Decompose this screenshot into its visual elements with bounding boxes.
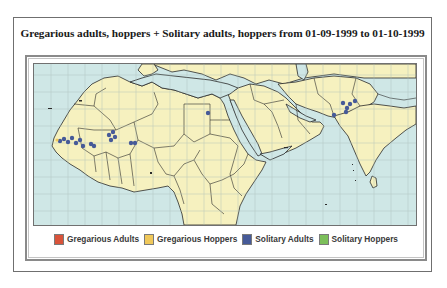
legend-label: Gregarious Adults	[67, 234, 139, 244]
observation-marker-solitary-adults[interactable]	[129, 141, 133, 145]
observation-marker-solitary-adults[interactable]	[66, 140, 70, 144]
observation-marker-solitary-adults[interactable]	[345, 106, 349, 110]
legend-swatch-gregarious-adults	[54, 234, 64, 245]
legend-swatch-solitary-hoppers	[319, 234, 329, 245]
observation-marker-solitary-adults[interactable]	[74, 141, 78, 145]
map-title: Gregarious adults, hoppers + Solitary ad…	[14, 27, 431, 39]
legend-label: Gregarious Hoppers	[157, 234, 237, 244]
locust-distribution-map[interactable]	[33, 63, 417, 226]
observation-marker-solitary-adults[interactable]	[332, 113, 336, 117]
observation-marker-solitary-adults[interactable]	[348, 102, 352, 106]
map-frame: Gregarious Adults Gregarious Hoppers Sol…	[25, 55, 427, 261]
observation-marker-solitary-adults[interactable]	[111, 130, 115, 134]
observation-marker-solitary-adults[interactable]	[62, 137, 66, 141]
observation-marker-solitary-adults[interactable]	[78, 138, 82, 142]
legend-label: Solitary Adults	[255, 234, 313, 244]
observation-marker-gregarious-hoppers[interactable]	[55, 138, 58, 141]
legend-item-solitary-adults[interactable]: Solitary Adults	[242, 234, 313, 245]
observation-marker-solitary-adults[interactable]	[341, 101, 345, 105]
observation-marker-solitary-adults[interactable]	[92, 144, 96, 148]
legend-swatch-gregarious-hoppers	[144, 234, 154, 245]
legend-swatch-solitary-adults	[242, 234, 252, 245]
observation-marker-solitary-adults[interactable]	[113, 135, 117, 139]
legend-label: Solitary Hoppers	[332, 234, 398, 244]
map-panel: Gregarious adults, hoppers + Solitary ad…	[13, 17, 432, 272]
observation-marker-solitary-adults[interactable]	[344, 110, 348, 114]
observation-marker-solitary-adults[interactable]	[133, 141, 137, 145]
legend-item-gregarious-hoppers[interactable]: Gregarious Hoppers	[144, 234, 237, 245]
observation-marker-solitary-adults[interactable]	[81, 144, 85, 148]
observation-marker-solitary-adults[interactable]	[109, 138, 113, 142]
legend-item-gregarious-adults[interactable]: Gregarious Adults	[54, 234, 139, 245]
observation-marker-solitary-adults[interactable]	[70, 136, 74, 140]
observation-marker-solitary-adults[interactable]	[353, 99, 357, 103]
observation-marker-solitary-adults[interactable]	[107, 133, 111, 137]
map-legend: Gregarious Adults Gregarious Hoppers Sol…	[27, 232, 425, 246]
observation-marker-solitary-adults[interactable]	[206, 111, 210, 115]
legend-item-solitary-hoppers[interactable]: Solitary Hoppers	[319, 234, 398, 245]
